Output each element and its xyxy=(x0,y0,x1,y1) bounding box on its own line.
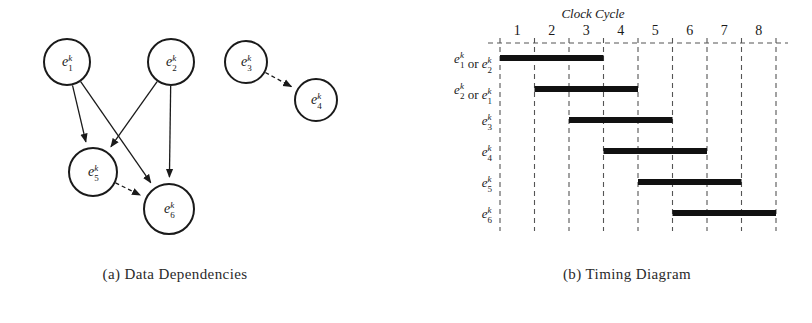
timing-row-label-4: ek4 xyxy=(482,143,493,163)
timing-row-label-6: ek6 xyxy=(482,205,493,225)
cycle-number-4: 4 xyxy=(617,23,624,38)
panel-timing-diagram: Clock Cycle 12345678 ek1 or ek2ek2 or ek… xyxy=(406,0,812,323)
dependency-node-e6[interactable]: ek6 xyxy=(144,184,194,234)
figure-container: ek1ek2ek3ek4ek5ek6 (a) Data Dependencies… xyxy=(0,0,812,323)
cycle-number-3: 3 xyxy=(583,23,590,38)
panel-data-dependencies: ek1ek2ek3ek4ek5ek6 (a) Data Dependencies xyxy=(0,0,406,323)
dependency-node-e5[interactable]: ek5 xyxy=(69,148,117,196)
timing-row-label-2: ek2 or ek1 xyxy=(454,81,492,106)
dependency-node-e1[interactable]: ek1 xyxy=(44,39,90,85)
timing-bars xyxy=(500,58,776,213)
cycle-number-7: 7 xyxy=(721,23,728,38)
dependency-edge-e2-to-e6 xyxy=(169,86,170,177)
dependency-edge-e3-to-e4 xyxy=(265,72,291,86)
dependency-node-e4[interactable]: ek4 xyxy=(295,79,337,121)
clock-cycle-title: Clock Cycle xyxy=(561,6,624,21)
dependency-edge-e2-to-e5 xyxy=(111,82,157,147)
dependency-edge-e5-to-e6 xyxy=(115,183,140,195)
dependency-node-e2[interactable]: ek2 xyxy=(148,39,194,85)
dependency-node-e3[interactable]: ek3 xyxy=(225,41,267,83)
timing-row-label-5: ek5 xyxy=(482,174,493,194)
dependency-graph: ek1ek2ek3ek4ek5ek6 xyxy=(0,0,406,260)
timing-diagram-chart: Clock Cycle 12345678 ek1 or ek2ek2 or ek… xyxy=(406,0,812,260)
cycle-number-6: 6 xyxy=(686,23,693,38)
dependency-node-layer: ek1ek2ek3ek4ek5ek6 xyxy=(44,39,337,234)
cycle-number-1: 1 xyxy=(514,23,521,38)
cycle-number-2: 2 xyxy=(548,23,555,38)
cycle-number-labels: 12345678 xyxy=(514,23,763,38)
panel-a-caption: (a) Data Dependencies xyxy=(0,266,378,283)
dependency-edge-e1-to-e5 xyxy=(73,85,86,141)
timing-row-label-1: ek1 or ek2 xyxy=(454,50,492,75)
panel-b-caption: (b) Timing Diagram xyxy=(424,266,812,283)
timing-row-labels: ek1 or ek2ek2 or ek1ek3ek4ek5ek6 xyxy=(454,50,492,225)
timing-row-label-3: ek3 xyxy=(482,112,493,132)
timing-gridlines xyxy=(488,38,788,231)
cycle-number-5: 5 xyxy=(652,23,659,38)
cycle-number-8: 8 xyxy=(755,23,762,38)
